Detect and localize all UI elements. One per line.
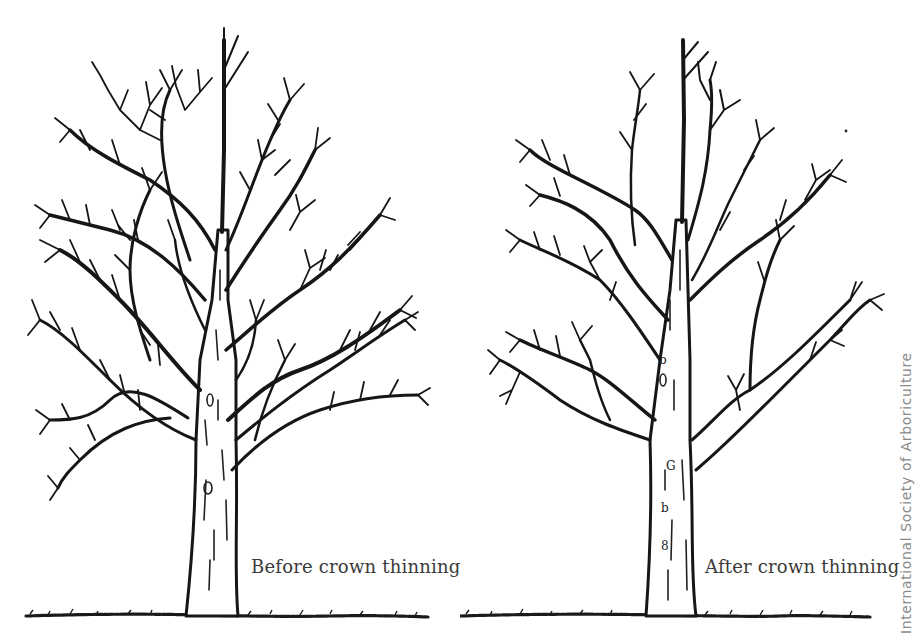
panel-after: b G b 8 — [460, 0, 900, 634]
caption-after: After crown thinning — [705, 556, 899, 577]
panel-before: Before crown thinning — [0, 0, 460, 634]
crown-thinning-figure: Before crown thinning b G b 8 — [0, 0, 920, 634]
credit-text: International Society of Arboriculture — [898, 352, 914, 634]
tree-before-illustration — [0, 0, 460, 634]
tree-after-illustration: b G b 8 — [460, 0, 900, 634]
caption-before: Before crown thinning — [251, 556, 460, 577]
svg-text:b: b — [661, 501, 669, 515]
svg-text:G: G — [666, 459, 676, 473]
svg-text:8: 8 — [661, 539, 669, 553]
